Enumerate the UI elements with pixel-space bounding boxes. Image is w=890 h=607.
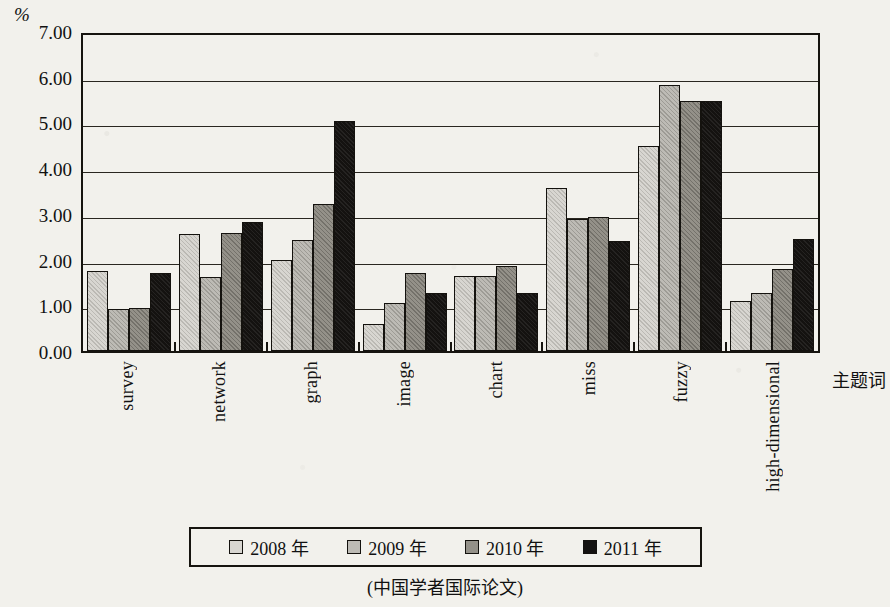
legend-label: 2008 年 xyxy=(250,534,309,560)
x-axis-tick-label: fuzzy xyxy=(671,361,692,402)
x-axis-tick-labels: surveynetworkgraphimagechartmissfuzzyhig… xyxy=(81,353,820,513)
legend-swatch xyxy=(465,540,479,554)
x-axis-tick-label: chart xyxy=(486,361,507,398)
bar[interactable] xyxy=(129,308,150,351)
y-axis-tick-label: 4.00 xyxy=(0,159,72,181)
bar[interactable] xyxy=(405,273,426,351)
x-axis-tick-label-cell: chart xyxy=(451,353,543,513)
bar[interactable] xyxy=(588,217,609,351)
y-axis-tick-label: 3.00 xyxy=(0,205,72,227)
bar[interactable] xyxy=(730,301,751,351)
bar-group xyxy=(175,35,267,351)
bar[interactable] xyxy=(454,276,475,351)
figure-caption: (中国学者国际论文) xyxy=(0,573,890,599)
x-axis-tick-label-cell: high-dimensional xyxy=(728,353,820,513)
x-axis-tick-label: high-dimensional xyxy=(763,361,784,492)
bar[interactable] xyxy=(772,269,793,351)
bar[interactable] xyxy=(334,121,355,351)
y-axis-tick-label: 0.00 xyxy=(0,342,72,364)
bar[interactable] xyxy=(200,277,221,351)
legend-swatch xyxy=(347,540,361,554)
bar[interactable] xyxy=(271,260,292,351)
x-axis-tick-label: graph xyxy=(301,361,322,403)
x-axis-tick-label: survey xyxy=(117,361,138,411)
bar-groups xyxy=(83,35,818,351)
bar[interactable] xyxy=(609,241,630,351)
bar[interactable] xyxy=(496,266,517,351)
legend-item[interactable]: 2011 年 xyxy=(583,534,662,560)
y-axis-tick-label: 6.00 xyxy=(0,68,72,90)
bar[interactable] xyxy=(313,204,334,351)
x-axis-tick-label: image xyxy=(394,361,415,406)
legend-item[interactable]: 2008 年 xyxy=(229,534,309,560)
bar[interactable] xyxy=(363,324,384,351)
x-axis-tick-label: miss xyxy=(579,361,600,395)
x-axis-tick-label-cell: network xyxy=(173,353,265,513)
bar[interactable] xyxy=(638,146,659,351)
bar[interactable] xyxy=(567,219,588,351)
bar[interactable] xyxy=(384,303,405,351)
bar[interactable] xyxy=(751,293,772,351)
x-axis-title: 主题词 xyxy=(832,366,886,392)
bar[interactable] xyxy=(179,234,200,351)
legend-item[interactable]: 2009 年 xyxy=(347,534,427,560)
bar[interactable] xyxy=(517,293,538,352)
bar[interactable] xyxy=(475,276,496,351)
bar[interactable] xyxy=(150,273,171,351)
bar[interactable] xyxy=(701,101,722,351)
bar[interactable] xyxy=(108,309,129,352)
bar[interactable] xyxy=(426,293,447,351)
legend-swatch xyxy=(583,540,597,554)
bar[interactable] xyxy=(680,101,701,351)
bar-group xyxy=(267,35,359,351)
x-axis-tick-label: network xyxy=(209,361,230,422)
bar[interactable] xyxy=(292,240,313,351)
legend-label: 2011 年 xyxy=(604,534,662,560)
x-axis-tick-label-cell: image xyxy=(358,353,450,513)
y-axis-tick-label: 5.00 xyxy=(0,113,72,135)
bar-group xyxy=(542,35,634,351)
bar[interactable] xyxy=(793,239,814,351)
legend-item[interactable]: 2010 年 xyxy=(465,534,545,560)
bar[interactable] xyxy=(221,233,242,351)
y-axis-tick-label: 1.00 xyxy=(0,296,72,318)
bar-group xyxy=(83,35,175,351)
x-axis-tick-label-cell: graph xyxy=(266,353,358,513)
y-axis-tick-label: 2.00 xyxy=(0,251,72,273)
bar[interactable] xyxy=(546,188,567,351)
plot-area xyxy=(81,33,820,353)
y-axis-tick-label: 7.00 xyxy=(0,22,72,44)
x-axis-tick-label-cell: survey xyxy=(81,353,173,513)
bar[interactable] xyxy=(87,271,108,351)
x-axis-tick-label-cell: miss xyxy=(543,353,635,513)
bar[interactable] xyxy=(659,85,680,351)
legend-swatch xyxy=(229,540,243,554)
chart-legend: 2008 年2009 年2010 年2011 年 xyxy=(189,527,702,567)
bar-group xyxy=(634,35,726,351)
bar[interactable] xyxy=(242,222,263,351)
bar-chart-figure: % 7.006.005.004.003.002.001.000.00 surve… xyxy=(0,0,890,607)
x-axis-tick-label-cell: fuzzy xyxy=(635,353,727,513)
legend-label: 2009 年 xyxy=(368,534,427,560)
bar-group xyxy=(726,35,818,351)
legend-label: 2010 年 xyxy=(486,534,545,560)
bar-group xyxy=(359,35,451,351)
bar-group xyxy=(451,35,543,351)
